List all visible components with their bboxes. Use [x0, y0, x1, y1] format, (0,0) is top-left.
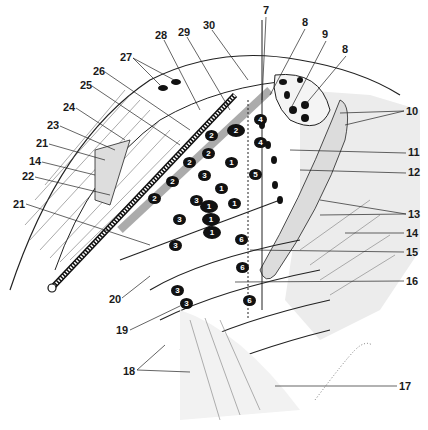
lymph-node-group-1: 1 [228, 198, 241, 209]
callout-label-28: 28 [155, 30, 167, 41]
lymph-node-group-3: 3 [169, 240, 182, 251]
callout-label-14: 14 [406, 228, 418, 239]
callout-label-14: 14 [29, 156, 41, 167]
callout-label-10: 10 [406, 106, 418, 117]
callout-label-13: 13 [408, 209, 420, 220]
lymph-node-group-2: 2 [227, 124, 245, 137]
callout-label-15: 15 [406, 247, 418, 258]
callout-label-25: 25 [80, 80, 92, 91]
callout-label-17: 17 [399, 381, 411, 392]
lymph-node-group-3: 3 [198, 170, 211, 181]
callout-label-16: 16 [406, 276, 418, 287]
lymph-node-group-2: 2 [205, 130, 218, 141]
callout-label-21: 21 [13, 199, 25, 210]
anatomical-illustration: 2728293078982625242321142221101112131415… [0, 0, 428, 430]
callout-label-27: 27 [120, 52, 132, 63]
callout-label-19: 19 [116, 325, 128, 336]
callout-label-8: 8 [302, 17, 308, 28]
callout-label-24: 24 [63, 102, 75, 113]
lymph-node-group-3: 3 [173, 214, 186, 225]
callout-label-7: 7 [263, 5, 269, 16]
lymph-node-group-1: 1 [202, 213, 220, 226]
callout-label-26: 26 [93, 66, 105, 77]
lymph-node-group-1: 1 [203, 226, 221, 239]
callout-label-22: 22 [22, 171, 34, 182]
lymph-node-group-1: 1 [200, 200, 218, 213]
lymph-node-group-6: 6 [235, 234, 248, 245]
lymph-node-group-4: 4 [254, 137, 267, 148]
callout-label-18: 18 [123, 366, 135, 377]
lymph-node-group-1: 1 [215, 183, 228, 194]
callout-label-29: 29 [178, 27, 190, 38]
callout-label-30: 30 [203, 20, 215, 31]
callout-label-23: 23 [47, 120, 59, 131]
lymph-node-group-6: 6 [243, 295, 256, 306]
lymph-node-group-3: 3 [180, 298, 193, 309]
callout-label-21: 21 [36, 138, 48, 149]
lymph-node-group-2: 2 [202, 148, 215, 159]
callout-label-12: 12 [408, 167, 420, 178]
callout-label-11: 11 [408, 147, 420, 158]
lymph-node-group-3: 3 [171, 285, 184, 296]
lymph-node-group-5: 5 [249, 169, 262, 180]
callout-label-8: 8 [342, 44, 348, 55]
lymph-node-group-2: 2 [148, 193, 161, 204]
lymph-node-group-2: 2 [166, 176, 179, 187]
callout-label-20: 20 [109, 294, 121, 305]
lymph-node-group-6: 6 [236, 262, 249, 273]
callout-label-9: 9 [322, 29, 328, 40]
lymph-node-group-1: 1 [225, 157, 238, 168]
lymph-node-group-2: 2 [183, 157, 196, 168]
lymph-node-group-4: 4 [254, 114, 267, 125]
